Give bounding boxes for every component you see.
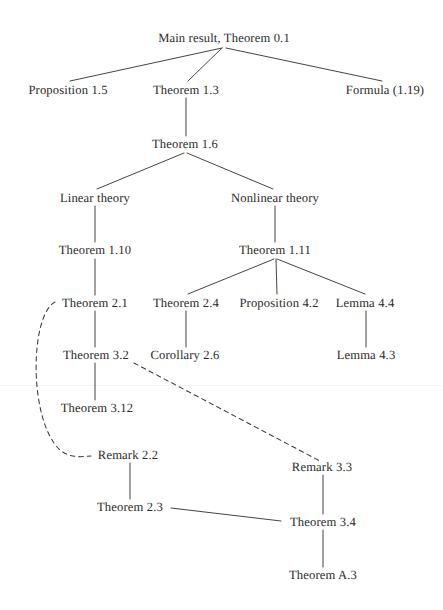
node-cor26[interactable]: Corollary 2.6	[150, 349, 219, 362]
node-main[interactable]: Main result, Theorem 0.1	[158, 32, 290, 45]
node-prop42[interactable]: Proposition 4.2	[239, 297, 318, 310]
node-thm16[interactable]: Theorem 1.6	[152, 138, 218, 151]
node-nonlinear[interactable]: Nonlinear theory	[231, 192, 319, 205]
node-form119[interactable]: Formula (1.19)	[346, 84, 424, 97]
node-lem44[interactable]: Lemma 4.4	[336, 297, 395, 310]
edge-thm23-to-thm34	[171, 508, 281, 521]
edge-thm16-to-linear	[97, 153, 184, 189]
node-prop15[interactable]: Proposition 1.5	[28, 84, 107, 97]
node-thma3[interactable]: Theorem A.3	[289, 569, 357, 582]
edge-thm111-to-thm24	[188, 259, 274, 294]
edge-thm21-to-rem22	[36, 302, 91, 457]
node-lem43[interactable]: Lemma 4.3	[337, 349, 396, 362]
node-thm13[interactable]: Theorem 1.3	[153, 84, 219, 97]
node-rem33[interactable]: Remark 3.3	[292, 461, 352, 474]
edge-thm16-to-nonlinear	[187, 153, 273, 189]
edge-main-to-prop15	[70, 48, 222, 81]
edge-main-to-thm13	[188, 48, 222, 81]
edge-main-to-form119	[226, 48, 382, 81]
diagram-canvas: Main result, Theorem 0.1Proposition 1.5T…	[0, 0, 443, 610]
node-rem22[interactable]: Remark 2.2	[98, 449, 158, 462]
node-linear[interactable]: Linear theory	[60, 192, 130, 205]
node-thm34[interactable]: Theorem 3.4	[290, 516, 356, 529]
edge-thm32-to-rem33	[134, 363, 320, 461]
edge-thm111-to-lem44	[277, 259, 365, 294]
node-thm110[interactable]: Theorem 1.10	[59, 244, 131, 257]
node-thm23[interactable]: Theorem 2.3	[97, 501, 163, 514]
node-thm21[interactable]: Theorem 2.1	[62, 297, 128, 310]
node-thm312[interactable]: Theorem 3.12	[61, 402, 133, 415]
node-thm32[interactable]: Theorem 3.2	[63, 349, 129, 362]
node-thm111[interactable]: Theorem 1.11	[239, 244, 311, 257]
edge-thm111-to-prop42	[276, 259, 277, 294]
node-thm24[interactable]: Theorem 2.4	[153, 297, 219, 310]
